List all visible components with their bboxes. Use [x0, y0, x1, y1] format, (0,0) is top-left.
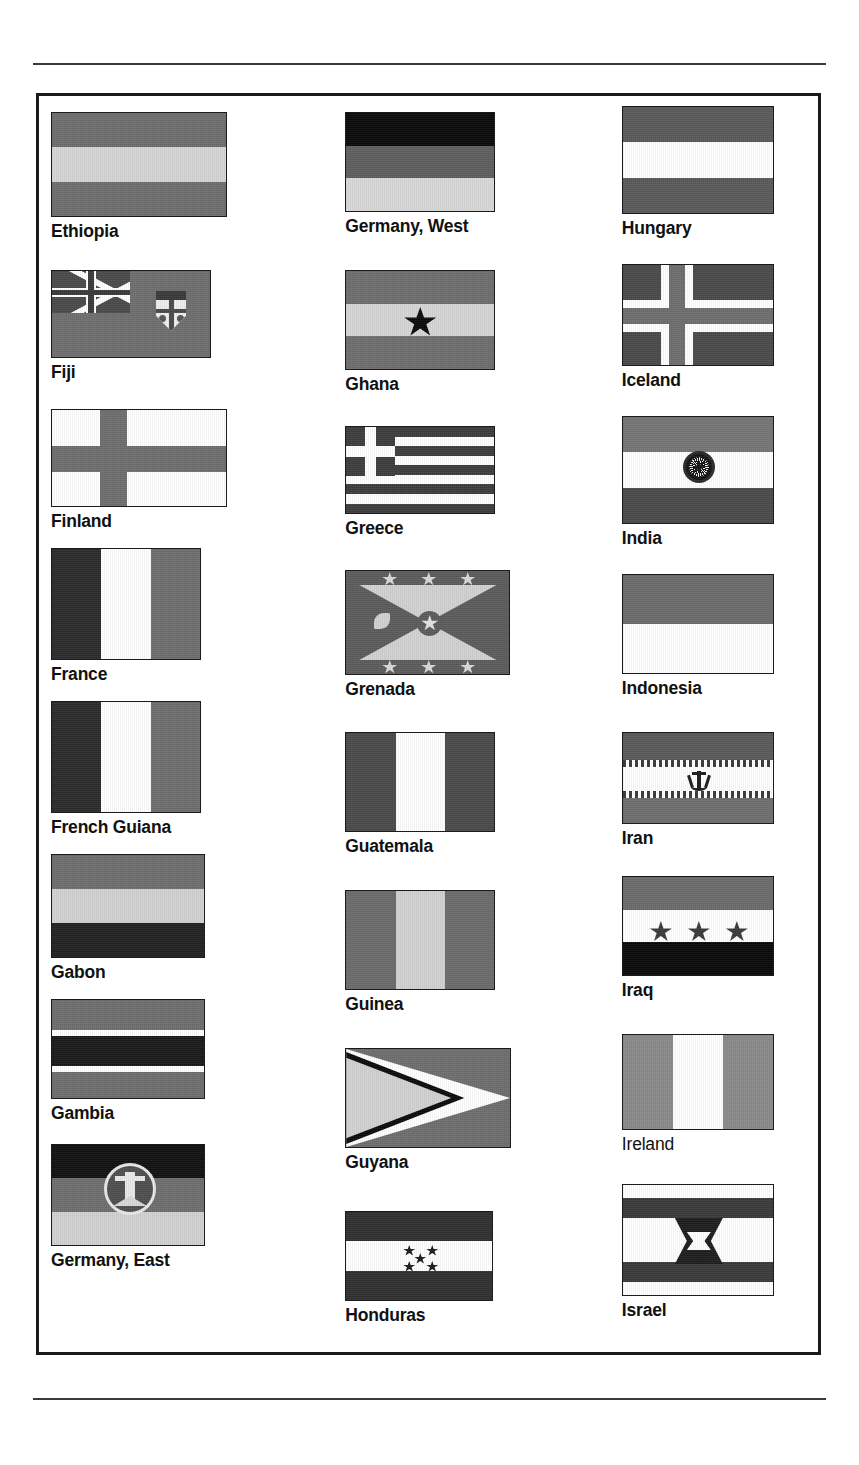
flag-label-guatemala: Guatemala	[345, 837, 495, 856]
flag-cell-germany-west[interactable]: Germany, West	[345, 112, 495, 236]
flag-column-3: Hungary Iceland	[622, 96, 818, 1352]
bottom-rule	[33, 1398, 826, 1400]
flag-germany-west	[345, 112, 495, 212]
flag-column-2: Germany, West Ghana	[345, 96, 622, 1352]
flag-cell-greece[interactable]: Greece	[345, 426, 495, 538]
flag-cell-india[interactable]: India	[622, 416, 774, 548]
flag-label-guinea: Guinea	[345, 995, 495, 1014]
flag-cell-guyana[interactable]: Guyana	[345, 1048, 511, 1172]
flag-gabon	[51, 854, 205, 958]
flag-ghana	[345, 270, 495, 370]
flag-label-grenada: Grenada	[345, 680, 510, 699]
flag-cell-french-guiana[interactable]: French Guiana	[51, 701, 201, 837]
flag-honduras	[345, 1211, 493, 1301]
chakra-icon	[683, 451, 715, 483]
flag-panel: Ethiopia	[36, 93, 821, 1355]
flag-label-france: France	[51, 665, 201, 684]
flag-guyana	[345, 1048, 511, 1148]
flag-label-gabon: Gabon	[51, 963, 205, 982]
flag-label-iraq: Iraq	[622, 981, 774, 1000]
flag-guinea	[345, 890, 495, 990]
flag-cell-hungary[interactable]: Hungary	[622, 106, 774, 238]
flag-label-finland: Finland	[51, 512, 227, 531]
flag-label-germany-east: Germany, East	[51, 1251, 205, 1270]
flag-finland	[51, 409, 227, 507]
flag-cell-iceland[interactable]: Iceland	[622, 264, 774, 390]
flag-cell-israel[interactable]: Israel	[622, 1184, 774, 1320]
flag-germany-east	[51, 1144, 205, 1246]
flag-plate-page: Ethiopia	[0, 0, 859, 1465]
flag-label-guyana: Guyana	[345, 1153, 511, 1172]
flag-cell-ghana[interactable]: Ghana	[345, 270, 495, 394]
flag-cell-grenada[interactable]: Grenada	[345, 570, 510, 699]
flag-label-india: India	[622, 529, 774, 548]
star-of-david-icon	[675, 1218, 723, 1264]
flag-cell-iraq[interactable]: Iraq	[622, 876, 774, 1000]
flag-grenada	[345, 570, 510, 675]
flag-cell-ireland[interactable]: Ireland	[622, 1034, 774, 1154]
flag-columns: Ethiopia	[39, 96, 818, 1352]
flag-label-ethiopia: Ethiopia	[51, 222, 227, 241]
flag-cell-ethiopia[interactable]: Ethiopia	[51, 112, 227, 241]
flag-fiji	[51, 270, 211, 358]
flag-label-honduras: Honduras	[345, 1306, 493, 1325]
flag-label-greece: Greece	[345, 519, 495, 538]
flag-hungary	[622, 106, 774, 214]
flag-cell-iran[interactable]: Iran	[622, 732, 774, 848]
flag-cell-fiji[interactable]: Fiji	[51, 270, 211, 382]
flag-iraq	[622, 876, 774, 976]
flag-ethiopia	[51, 112, 227, 217]
flag-label-hungary: Hungary	[622, 219, 774, 238]
iran-emblem-icon	[688, 771, 710, 789]
flag-cell-guinea[interactable]: Guinea	[345, 890, 495, 1014]
flag-label-indonesia: Indonesia	[622, 679, 774, 698]
flag-indonesia	[622, 574, 774, 674]
top-rule	[33, 63, 826, 65]
flag-label-germany-west: Germany, West	[345, 217, 495, 236]
flag-ireland	[622, 1034, 774, 1130]
flag-iceland	[622, 264, 774, 366]
flag-label-ghana: Ghana	[345, 375, 495, 394]
flag-cell-guatemala[interactable]: Guatemala	[345, 732, 495, 856]
flag-cell-finland[interactable]: Finland	[51, 409, 227, 531]
flag-label-ireland: Ireland	[622, 1135, 774, 1154]
flag-column-1: Ethiopia	[39, 96, 345, 1352]
flag-iran	[622, 732, 774, 824]
flag-label-gambia: Gambia	[51, 1104, 205, 1123]
flag-france	[51, 548, 201, 660]
flag-cell-indonesia[interactable]: Indonesia	[622, 574, 774, 698]
flag-cell-honduras[interactable]: Honduras	[345, 1211, 493, 1325]
flag-cell-gambia[interactable]: Gambia	[51, 999, 205, 1123]
flag-cell-germany-east[interactable]: Germany, East	[51, 1144, 205, 1270]
flag-india	[622, 416, 774, 524]
flag-label-iran: Iran	[622, 829, 774, 848]
flag-label-french-guiana: French Guiana	[51, 818, 201, 837]
flag-label-fiji: Fiji	[51, 363, 211, 382]
flag-label-iceland: Iceland	[622, 371, 774, 390]
flag-cell-gabon[interactable]: Gabon	[51, 854, 205, 982]
flag-guatemala	[345, 732, 495, 832]
flag-greece	[345, 426, 495, 514]
flag-french-guiana	[51, 701, 201, 813]
flag-label-israel: Israel	[622, 1301, 774, 1320]
flag-gambia	[51, 999, 205, 1099]
flag-israel	[622, 1184, 774, 1296]
flag-cell-france[interactable]: France	[51, 548, 201, 684]
